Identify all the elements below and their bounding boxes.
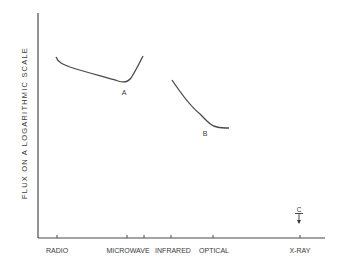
x-label-infrared: INFRARED <box>155 247 191 254</box>
curve-a <box>56 56 143 82</box>
y-axis-label: FLUX ON A LOGARITHMIC SCALE <box>20 47 29 199</box>
label-b: B <box>203 130 208 137</box>
x-label-microwave: MICROWAVE <box>106 247 149 254</box>
x-label-xray: X-RAY <box>290 247 311 254</box>
x-label-optical: OPTICAL <box>199 247 229 254</box>
curve-b <box>172 80 229 128</box>
arrow-down-icon <box>297 220 301 224</box>
x-label-radio: RADIO <box>46 247 69 254</box>
label-a: A <box>122 89 127 96</box>
marker-c: C <box>295 206 303 224</box>
spectrum-chart: FLUX ON A LOGARITHMIC SCALE RADIO MICROW… <box>0 0 338 268</box>
label-c: C <box>297 206 302 213</box>
